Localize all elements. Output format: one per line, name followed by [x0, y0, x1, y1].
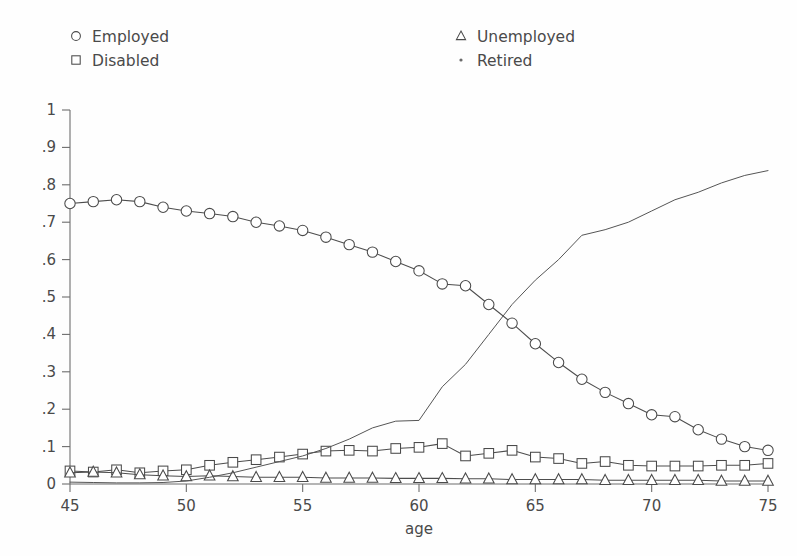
data-point-employed: [321, 232, 331, 242]
data-point-disabled: [647, 461, 657, 471]
data-point-disabled: [368, 446, 378, 456]
y-tick-label: .6: [42, 251, 56, 269]
x-tick-label: 65: [526, 497, 545, 515]
data-point-disabled: [577, 459, 587, 469]
data-point-disabled: [624, 461, 634, 471]
y-tick-label: .7: [42, 213, 56, 231]
data-point-unemployed: [321, 472, 332, 482]
legend-entry-retired: Retired: [459, 52, 532, 70]
data-point-employed: [344, 239, 354, 249]
data-point-employed: [716, 434, 726, 444]
data-point-unemployed: [437, 473, 448, 483]
data-point-employed: [646, 410, 656, 420]
data-point-employed: [367, 247, 377, 257]
data-point-employed: [251, 217, 261, 227]
data-point-disabled: [228, 458, 238, 468]
chart-figure: EmployedDisabledUnemployedRetired 0.1.2.…: [0, 0, 797, 556]
legend-label-disabled: Disabled: [92, 52, 159, 70]
data-point-disabled: [693, 461, 703, 471]
data-point-employed: [530, 339, 540, 349]
data-point-employed: [228, 211, 238, 221]
data-point-employed: [204, 208, 214, 218]
data-point-unemployed: [577, 474, 588, 484]
legend-marker-employed: [72, 32, 81, 41]
data-point-disabled: [251, 455, 261, 465]
data-point-employed: [693, 425, 703, 435]
data-point-employed: [507, 318, 517, 328]
series-retired: [70, 171, 768, 483]
data-point-disabled: [414, 443, 424, 453]
data-point-unemployed: [670, 474, 681, 484]
data-point-unemployed: [553, 474, 564, 484]
legend-label-employed: Employed: [92, 28, 169, 46]
x-axis-title: age: [405, 520, 433, 538]
data-point-employed: [111, 195, 121, 205]
x-tick-label: 75: [758, 497, 777, 515]
data-point-employed: [763, 445, 773, 455]
data-point-disabled: [344, 446, 354, 456]
data-point-disabled: [507, 446, 517, 456]
series-employed: [65, 195, 773, 456]
data-point-unemployed: [600, 474, 611, 484]
legend-marker-retired: [459, 58, 462, 61]
data-point-disabled: [531, 452, 541, 462]
data-point-employed: [88, 196, 98, 206]
data-point-employed: [577, 374, 587, 384]
data-point-employed: [600, 387, 610, 397]
data-point-disabled: [717, 461, 727, 471]
y-tick-label: 1: [46, 101, 56, 119]
data-point-disabled: [205, 461, 215, 471]
y-tick-label: .2: [42, 400, 56, 418]
data-point-unemployed: [623, 474, 634, 484]
data-point-unemployed: [204, 470, 215, 480]
data-point-employed: [740, 441, 750, 451]
x-tick-label: 55: [293, 497, 312, 515]
chart-svg: EmployedDisabledUnemployedRetired 0.1.2.…: [0, 0, 797, 556]
chart-axes: [62, 110, 768, 492]
chart-series: [65, 171, 774, 486]
series-line-retired: [70, 171, 768, 483]
data-point-disabled: [461, 451, 471, 461]
y-tick-label: .4: [42, 325, 56, 343]
legend-entry-unemployed: Unemployed: [456, 28, 575, 46]
data-point-disabled: [391, 444, 401, 454]
legend-entry-employed: Employed: [72, 28, 169, 46]
legend-marker-unemployed: [456, 31, 465, 40]
legend-label-unemployed: Unemployed: [477, 28, 575, 46]
data-point-employed: [391, 256, 401, 266]
series-line-employed: [70, 200, 768, 451]
x-tick-label: 70: [642, 497, 661, 515]
data-point-employed: [623, 398, 633, 408]
data-point-disabled: [554, 454, 564, 464]
chart-legend: EmployedDisabledUnemployedRetired: [72, 28, 575, 70]
data-point-employed: [460, 281, 470, 291]
data-point-unemployed: [739, 475, 750, 485]
data-point-unemployed: [460, 473, 471, 483]
data-point-unemployed: [507, 474, 518, 484]
chart-axis-labels: 0.1.2.3.4.5.6.7.8.9145505560657075age: [42, 101, 778, 538]
x-tick-label: 50: [177, 497, 196, 515]
data-point-employed: [414, 266, 424, 276]
data-point-unemployed: [274, 471, 285, 481]
x-tick-label: 45: [60, 497, 79, 515]
data-point-disabled: [740, 461, 750, 471]
y-tick-label: .8: [42, 176, 56, 194]
data-point-employed: [297, 225, 307, 235]
data-point-employed: [484, 299, 494, 309]
legend-label-retired: Retired: [477, 52, 532, 70]
y-tick-label: 0: [46, 475, 56, 493]
data-point-employed: [670, 411, 680, 421]
data-point-unemployed: [693, 474, 704, 484]
data-point-disabled: [670, 461, 680, 471]
data-point-unemployed: [251, 471, 262, 481]
data-point-unemployed: [297, 471, 308, 481]
data-point-employed: [437, 279, 447, 289]
data-point-disabled: [298, 449, 308, 459]
data-point-disabled: [600, 457, 610, 467]
y-tick-label: .9: [42, 138, 56, 156]
data-point-disabled: [321, 446, 331, 456]
data-point-employed: [274, 221, 284, 231]
y-tick-label: .3: [42, 363, 56, 381]
data-point-unemployed: [716, 475, 727, 485]
data-point-employed: [553, 357, 563, 367]
